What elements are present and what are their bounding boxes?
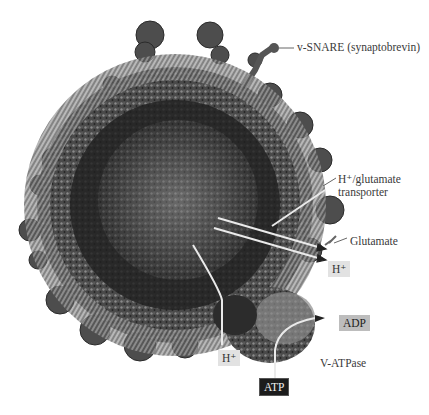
- label-v-snare: v-SNARE (synaptobrevin): [297, 41, 420, 54]
- glutamate-molecule: [325, 236, 336, 245]
- label-v-atpase: V-ATPase: [320, 357, 366, 370]
- label-h-plus-in: H⁺: [218, 350, 240, 366]
- label-transporter-line1: H⁺/glutamate: [338, 173, 401, 186]
- label-glutamate: Glutamate: [350, 235, 398, 248]
- vesicle-diagram: v-SNARE (synaptobrevin) H⁺/glutamate tra…: [0, 0, 429, 415]
- label-atp: ATP: [259, 378, 289, 396]
- label-adp: ADP: [339, 315, 370, 331]
- label-h-plus-out: H⁺: [328, 261, 350, 277]
- vesicle-illustration: [0, 0, 429, 415]
- label-transporter-line2: transporter: [338, 186, 388, 199]
